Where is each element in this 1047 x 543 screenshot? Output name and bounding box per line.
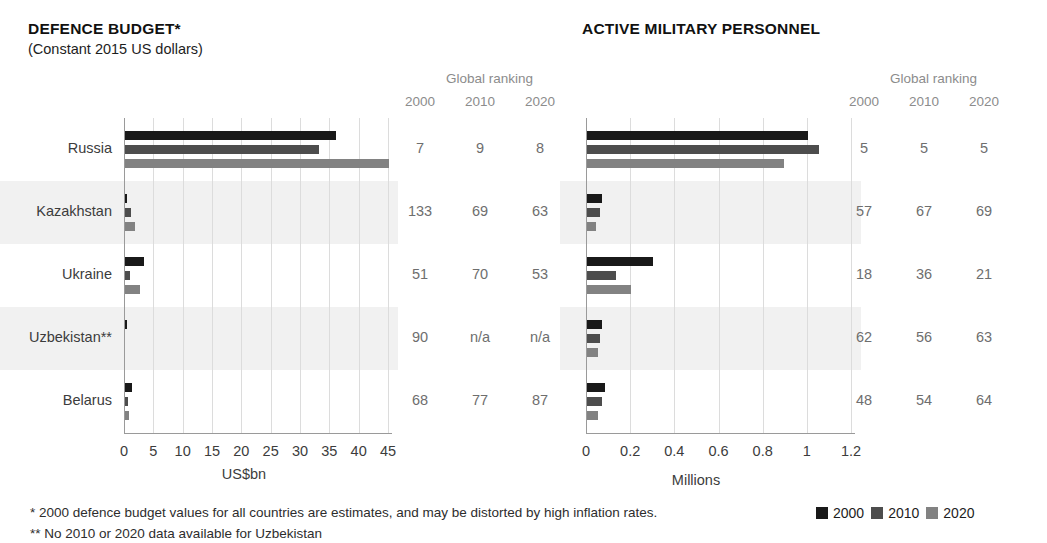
- category-label-uzbekistan: Uzbekistan**: [0, 329, 112, 345]
- bar-2000-belarus: [587, 383, 605, 392]
- bar-2000-russia: [125, 131, 336, 140]
- legend-label-2000: 2000: [833, 505, 864, 521]
- ranking-russia-2010: 5: [894, 140, 954, 156]
- row-band: [560, 307, 861, 370]
- bar-2020-belarus: [125, 411, 129, 420]
- category-label-ukraine: Ukraine: [0, 266, 112, 282]
- bar-2010-belarus: [125, 397, 128, 406]
- bar-2000-uzbekistan: [587, 320, 602, 329]
- legend-item-2020: 2020: [926, 505, 974, 521]
- ranking-uzbekistan-2020: 63: [954, 329, 1014, 345]
- bar-2000-kazakhstan: [587, 194, 602, 203]
- x-axis: [586, 433, 855, 434]
- bar-2010-ukraine: [125, 271, 130, 280]
- legend-label-2010: 2010: [888, 505, 919, 521]
- gridline: [807, 118, 808, 433]
- category-label-kazakhstan: Kazakhstan: [0, 203, 112, 219]
- x-axis: [124, 433, 392, 434]
- ranking-belarus-2020: 64: [954, 392, 1014, 408]
- ranking-uzbekistan-2010: 56: [894, 329, 954, 345]
- right-plot-area: 55557676918362162566348546400.20.40.60.8…: [560, 0, 1047, 543]
- bar-2020-russia: [587, 159, 784, 168]
- bar-2010-belarus: [587, 397, 602, 406]
- bar-2000-uzbekistan: [125, 320, 127, 329]
- x-tick-label: 0.8: [738, 443, 788, 459]
- bar-2000-ukraine: [125, 257, 144, 266]
- bar-2000-ukraine: [587, 257, 653, 266]
- left-axis-caption: US$bn: [184, 466, 304, 482]
- x-tick-label: 45: [363, 443, 413, 459]
- x-tick-label: 0.4: [649, 443, 699, 459]
- bar-2020-uzbekistan: [587, 348, 598, 357]
- bar-2010-russia: [587, 145, 819, 154]
- bar-2020-kazakhstan: [587, 222, 596, 231]
- x-tick-label: 0.2: [605, 443, 655, 459]
- ranking-belarus-2000: 48: [834, 392, 894, 408]
- x-tick-label: 0: [561, 443, 611, 459]
- ranking-kazakhstan-2020: 69: [954, 203, 1014, 219]
- ranking-kazakhstan-2010: 67: [894, 203, 954, 219]
- ranking-uzbekistan-2000: 90: [390, 329, 450, 345]
- x-tick-label: 1: [782, 443, 832, 459]
- bar-2020-ukraine: [587, 285, 631, 294]
- active-military-personnel-panel: ACTIVE MILITARY PERSONNEL Global ranking…: [560, 0, 1047, 543]
- ranking-ukraine-2000: 18: [834, 266, 894, 282]
- bar-2020-belarus: [587, 411, 598, 420]
- ranking-kazakhstan-2010: 69: [450, 203, 510, 219]
- bar-2000-belarus: [125, 383, 132, 392]
- bar-2000-kazakhstan: [125, 194, 127, 203]
- bar-2020-ukraine: [125, 285, 140, 294]
- category-label-belarus: Belarus: [0, 392, 112, 408]
- legend: 200020102020: [816, 505, 974, 521]
- x-tick-label: 0.6: [694, 443, 744, 459]
- footnote-1: * 2000 defence budget values for all cou…: [30, 505, 657, 520]
- ranking-belarus-2000: 68: [390, 392, 450, 408]
- bar-2010-uzbekistan: [587, 334, 600, 343]
- bar-2010-russia: [125, 145, 319, 154]
- defence-budget-panel: DEFENCE BUDGET* (Constant 2015 US dollar…: [0, 0, 560, 543]
- legend-swatch-2010: [871, 507, 883, 519]
- legend-item-2000: 2000: [816, 505, 864, 521]
- ranking-ukraine-2000: 51: [390, 266, 450, 282]
- left-plot-area: Russia798Kazakhstan1336963Ukraine517053U…: [0, 0, 560, 543]
- legend-swatch-2000: [816, 507, 828, 519]
- ranking-belarus-2010: 77: [450, 392, 510, 408]
- ranking-russia-2000: 5: [834, 140, 894, 156]
- ranking-ukraine-2010: 36: [894, 266, 954, 282]
- bar-2020-russia: [125, 159, 389, 168]
- row-band: [560, 181, 861, 244]
- ranking-uzbekistan-2000: 62: [834, 329, 894, 345]
- ranking-kazakhstan-2000: 133: [390, 203, 450, 219]
- ranking-belarus-2010: 54: [894, 392, 954, 408]
- ranking-ukraine-2020: 21: [954, 266, 1014, 282]
- x-tick-label: 1.2: [826, 443, 876, 459]
- bar-2020-kazakhstan: [125, 222, 135, 231]
- right-axis-caption: Millions: [636, 472, 756, 488]
- ranking-kazakhstan-2000: 57: [834, 203, 894, 219]
- category-label-russia: Russia: [0, 140, 112, 156]
- legend-label-2020: 2020: [943, 505, 974, 521]
- ranking-uzbekistan-2010: n/a: [450, 329, 510, 345]
- ranking-ukraine-2010: 70: [450, 266, 510, 282]
- ranking-russia-2020: 5: [954, 140, 1014, 156]
- legend-swatch-2020: [926, 507, 938, 519]
- legend-item-2010: 2010: [871, 505, 919, 521]
- bar-2010-kazakhstan: [125, 208, 131, 217]
- bar-2010-ukraine: [587, 271, 616, 280]
- ranking-russia-2010: 9: [450, 140, 510, 156]
- ranking-russia-2000: 7: [390, 140, 450, 156]
- bar-2010-kazakhstan: [587, 208, 600, 217]
- bar-2000-russia: [587, 131, 808, 140]
- footnote-2: ** No 2010 or 2020 data available for Uz…: [30, 526, 322, 541]
